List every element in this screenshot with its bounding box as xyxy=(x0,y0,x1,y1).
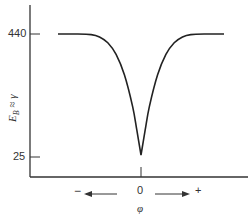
y-tick-label-440: 440 xyxy=(8,27,26,39)
y-label-rest: ≈ γ xyxy=(6,95,18,111)
x-axis-label: φ xyxy=(137,202,143,214)
y-axis-label: EB ≈ γ xyxy=(6,95,21,123)
data-curve xyxy=(58,34,224,155)
x-tick-label-0: 0 xyxy=(137,184,143,196)
y-label-sub: B xyxy=(12,110,21,115)
y-tick-label-25: 25 xyxy=(13,150,25,162)
positive-direction-label: + xyxy=(195,184,201,196)
chart-canvas xyxy=(0,0,252,220)
negative-direction-label: − xyxy=(74,184,81,198)
y-label-main: E xyxy=(6,115,18,122)
left-arrow-head xyxy=(84,191,92,197)
right-arrow-head xyxy=(182,191,190,197)
